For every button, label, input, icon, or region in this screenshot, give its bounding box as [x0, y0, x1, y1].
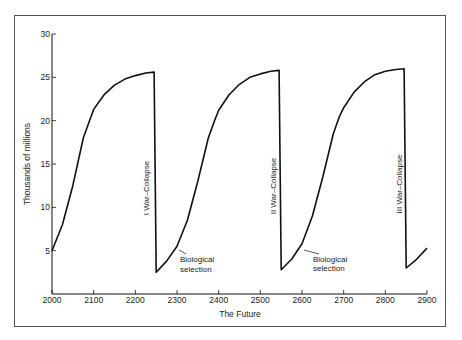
- axes: [52, 34, 427, 294]
- arrow-icon: [179, 250, 186, 254]
- y-tick-label: 15: [41, 159, 51, 169]
- y-axis-title: Thousands of millions: [22, 123, 32, 205]
- y-tick-label: 25: [41, 72, 51, 82]
- y-tick-label: 5: [45, 246, 50, 256]
- bio-label-2-line1: Biological: [313, 255, 347, 264]
- ticks: 5101520253020002100220023002400250026002…: [41, 29, 437, 305]
- bio-label-1-line2: selection: [180, 265, 212, 274]
- x-axis-title: The Future: [219, 309, 261, 319]
- x-tick-label: 2300: [168, 295, 187, 305]
- collapse-label-3: III War–Collapse: [395, 154, 404, 213]
- bio-label-2-line2: selection: [313, 264, 345, 273]
- y-tick-label: 20: [41, 116, 51, 126]
- bio-selection-annotation-1: Biological selection: [179, 250, 214, 274]
- x-tick-label: 2000: [43, 295, 62, 305]
- bio-label-1-line1: Biological: [180, 255, 214, 264]
- x-tick-label: 2700: [334, 295, 353, 305]
- x-tick-label: 2500: [251, 295, 270, 305]
- population-curve: [52, 69, 427, 273]
- population-chart: 5101520253020002100220023002400250026002…: [0, 0, 462, 340]
- x-tick-label: 2400: [209, 295, 228, 305]
- bio-selection-annotation-2: Biological selection: [304, 250, 347, 273]
- y-tick-label: 10: [41, 202, 51, 212]
- arrow-icon: [304, 250, 319, 254]
- x-tick-label: 2100: [84, 295, 103, 305]
- x-tick-label: 2800: [376, 295, 395, 305]
- collapse-label-2: II War–Collapse: [269, 157, 278, 214]
- x-tick-label: 2900: [418, 295, 437, 305]
- collapse-label-1: I War–Collapse: [142, 160, 151, 215]
- y-tick-label: 30: [41, 29, 51, 39]
- x-tick-label: 2600: [293, 295, 312, 305]
- x-tick-label: 2200: [126, 295, 145, 305]
